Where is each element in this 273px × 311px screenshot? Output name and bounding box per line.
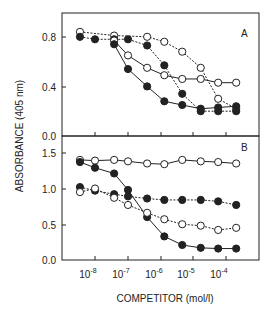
data-point-open	[197, 64, 204, 71]
data-point-open	[144, 64, 151, 71]
data-point-open	[179, 156, 186, 163]
data-point-open	[144, 160, 151, 167]
data-point-open	[91, 157, 98, 164]
data-point-filled	[179, 241, 186, 248]
data-point-filled	[161, 98, 168, 105]
data-point-open	[124, 52, 131, 59]
data-point-open	[197, 158, 204, 165]
b-ytick-0.5: 0.5	[42, 220, 56, 231]
series-a-filled-dashed-1	[76, 33, 239, 115]
data-point-filled	[144, 42, 151, 49]
data-point-filled	[91, 164, 98, 171]
data-point-filled	[197, 244, 204, 251]
panel-b-frame	[62, 136, 259, 260]
b-ytick-1.5: 1.5	[42, 148, 56, 159]
absorbance-chart: 0.8 0.4 0.0 1.5 1.0 0.5 0.0 10-8 10-7 10…	[0, 0, 273, 311]
xtick-1e-6: 10-6	[145, 267, 162, 280]
a-ytick-0.8: 0.8	[42, 32, 56, 43]
series-a-open-solid-2	[111, 37, 240, 86]
series-b-filled-dashed	[76, 183, 239, 208]
data-point-open	[233, 224, 240, 231]
data-point-open	[215, 79, 222, 86]
data-point-open	[124, 201, 131, 208]
data-point-filled	[161, 233, 168, 240]
x-tick-labels: 10-8 10-7 10-6 10-5 10-4	[79, 267, 227, 280]
panel-b-y-axis	[62, 153, 66, 225]
data-point-open	[161, 72, 168, 79]
panel-a-label: A	[241, 28, 248, 39]
data-point-open	[179, 48, 186, 55]
data-point-filled	[233, 245, 240, 252]
data-point-filled	[111, 41, 118, 48]
data-point-filled	[215, 198, 222, 205]
data-point-open	[215, 95, 222, 102]
data-point-open	[161, 38, 168, 45]
xtick-1e-8: 10-8	[79, 267, 96, 280]
data-point-filled	[124, 193, 131, 200]
data-point-filled	[111, 170, 118, 177]
data-point-open	[197, 222, 204, 229]
data-point-open	[144, 209, 151, 216]
data-point-open	[111, 194, 118, 201]
data-point-filled	[76, 158, 83, 165]
data-point-filled	[215, 245, 222, 252]
data-point-open	[215, 226, 222, 233]
data-point-filled	[233, 103, 240, 110]
panel-a-y-axis	[62, 37, 66, 87]
data-point-filled	[161, 196, 168, 203]
data-point-open	[161, 216, 168, 223]
xtick-1e-4: 10-4	[210, 267, 227, 280]
data-point-open	[144, 33, 151, 40]
data-point-open	[179, 221, 186, 228]
data-point-filled	[144, 195, 151, 202]
series-b-filled-solid-steep	[76, 158, 239, 252]
data-point-open	[215, 158, 222, 165]
data-point-open	[124, 158, 131, 165]
data-point-filled	[91, 36, 98, 43]
xtick-1e-5: 10-5	[177, 267, 194, 280]
data-point-filled	[215, 104, 222, 111]
data-point-filled	[179, 196, 186, 203]
series-a-open-dashed-1	[76, 28, 239, 112]
data-point-open	[197, 75, 204, 82]
panel-b-label: B	[241, 142, 248, 153]
data-point-open	[111, 156, 118, 163]
data-series	[76, 28, 239, 252]
b-ytick-1.0: 1.0	[42, 184, 56, 195]
data-point-open	[233, 160, 240, 167]
data-point-filled	[124, 65, 131, 72]
x-axis-title: COMPETITOR (mol/l)	[116, 293, 213, 304]
data-point-filled	[197, 105, 204, 112]
data-point-open	[91, 185, 98, 192]
data-point-open	[179, 75, 186, 82]
data-point-filled	[161, 62, 168, 69]
data-point-filled	[179, 101, 186, 108]
data-point-open	[233, 79, 240, 86]
data-point-filled	[179, 90, 186, 97]
data-point-filled	[233, 201, 240, 208]
a-ytick-0.4: 0.4	[42, 82, 56, 93]
b-ytick-0.0: 0.0	[42, 255, 56, 266]
data-point-filled	[76, 33, 83, 40]
data-point-filled	[197, 196, 204, 203]
xtick-1e-7: 10-7	[112, 267, 129, 280]
data-point-open	[76, 188, 83, 195]
data-point-filled	[124, 36, 131, 43]
y-axis-title: ABSORBANCE (405 nm)	[14, 80, 25, 192]
a-ytick-0.0: 0.0	[42, 131, 56, 142]
data-point-filled	[144, 83, 151, 90]
data-point-open	[161, 161, 168, 168]
series-b-open-solid-top	[76, 156, 239, 167]
